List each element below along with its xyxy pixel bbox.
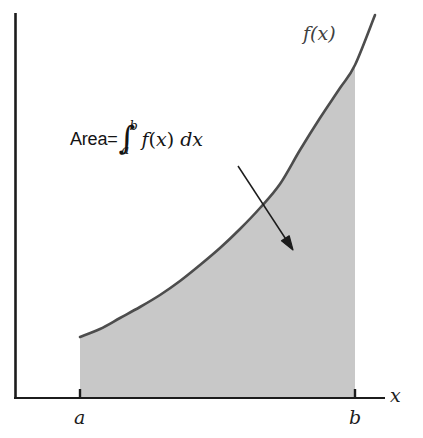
integral-formula: ∫ b a f(x) dx [119, 119, 204, 159]
area-equals-text: Area= [70, 129, 118, 150]
figure-canvas [0, 0, 423, 438]
differential-dx: dx [180, 128, 203, 150]
area-formula-annotation: Area= ∫ b a f(x) dx [70, 119, 203, 159]
x-axis-label: x [390, 386, 401, 405]
integrand-close-paren: ) [167, 128, 174, 150]
integral-lower-limit: a [122, 142, 130, 157]
x-tick-label-a: a [74, 408, 85, 427]
integrand-variable: x [156, 128, 167, 150]
shaded-area-region [80, 65, 355, 398]
integral-upper-limit: b [130, 118, 138, 133]
x-tick-label-b: b [349, 408, 361, 427]
function-curve-label: f(x) [303, 24, 336, 43]
integrand-open-paren: ( [149, 128, 156, 150]
integrand-expression: f(x) [142, 128, 175, 150]
integrand-function-name: f [142, 128, 149, 150]
integral-area-figure: f(x) a b x Area= ∫ b a f(x) dx [0, 0, 423, 438]
